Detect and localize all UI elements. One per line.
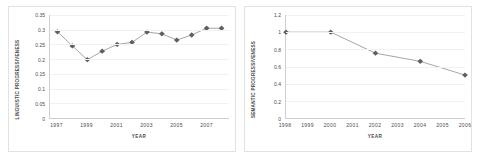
- chart-linguistic-progressiveness: LINGUISTIC PROGRESSIVENESS 00.050.10.150…: [8, 6, 236, 152]
- x-axis-ticks-left: 199719992001200320052007: [49, 122, 229, 132]
- plot-area-left: [49, 15, 229, 119]
- x-tick-label: 2000: [324, 122, 337, 128]
- data-point-marker: [189, 32, 195, 37]
- data-point-marker: [373, 51, 379, 56]
- x-tick-label: 2005: [436, 122, 449, 128]
- plot-area-right: [285, 15, 465, 119]
- y-tick-label: 0.25: [35, 42, 45, 48]
- y-tick-label: 0.2: [274, 99, 281, 105]
- gridline: [286, 32, 465, 33]
- gridline: [50, 59, 229, 60]
- x-axis-title-right: YEAR: [285, 134, 465, 139]
- gridline: [50, 44, 229, 45]
- y-tick-label: 0.6: [274, 64, 281, 70]
- gridline: [50, 30, 229, 31]
- y-tick-label: 0.05: [35, 101, 45, 107]
- x-tick-label: 2001: [110, 122, 123, 128]
- x-tick-label: 2001: [346, 122, 359, 128]
- x-tick-label: 1999: [301, 122, 314, 128]
- chart-semantic-progressiveness: SEMANTIC PROGRESSIVENESS 00.20.40.60.811…: [244, 6, 472, 152]
- x-tick-label: 2006: [459, 122, 472, 128]
- y-tick-label: 0.15: [35, 71, 45, 77]
- y-tick-label: 0.3: [38, 27, 45, 33]
- x-tick-label: 1998: [279, 122, 292, 128]
- x-axis-title-left: YEAR: [49, 134, 229, 139]
- gridline: [50, 15, 229, 16]
- gridline: [286, 49, 465, 50]
- x-tick-label: 2005: [170, 122, 183, 128]
- data-point-marker: [99, 49, 105, 54]
- data-point-marker: [159, 31, 165, 36]
- x-tick-label: 2002: [369, 122, 382, 128]
- gridline: [286, 101, 465, 102]
- x-tick-label: 2003: [140, 122, 153, 128]
- data-point-marker: [462, 72, 468, 77]
- gridline: [50, 89, 229, 90]
- gridline: [286, 67, 465, 68]
- x-axis-ticks-right: 199819992000200120022003200420052006: [285, 122, 465, 132]
- y-axis-ticks-right: 00.20.40.60.811.2: [259, 15, 283, 119]
- x-tick-label: 2004: [414, 122, 427, 128]
- y-axis-ticks-left: 00.050.10.150.20.250.30.35: [23, 15, 47, 119]
- gridline: [286, 84, 465, 85]
- gridline: [286, 15, 465, 16]
- x-tick-label: 1999: [80, 122, 93, 128]
- figure-panel: LINGUISTIC PROGRESSIVENESS 00.050.10.150…: [0, 0, 480, 158]
- y-tick-label: 0.2: [38, 57, 45, 63]
- x-tick-label: 2007: [200, 122, 213, 128]
- y-tick-label: 0.1: [38, 86, 45, 92]
- gridline: [50, 74, 229, 75]
- y-tick-label: 0.4: [274, 81, 281, 87]
- gridline: [50, 103, 229, 104]
- data-point-marker: [417, 59, 423, 64]
- y-tick-label: 0: [42, 116, 45, 122]
- y-tick-label: 1: [278, 29, 281, 35]
- y-tick-label: 0.8: [274, 47, 281, 53]
- y-tick-label: 0.35: [35, 12, 45, 18]
- data-point-marker: [174, 37, 180, 42]
- x-tick-label: 2003: [391, 122, 404, 128]
- x-tick-label: 1997: [50, 122, 63, 128]
- y-tick-label: 1.2: [274, 12, 281, 18]
